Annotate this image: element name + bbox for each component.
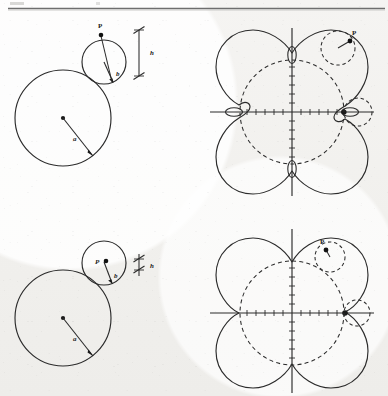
tracing-point-P-dot [348,39,353,44]
page-canvas: a b P h [0,0,388,396]
tracing-point-P-dot [104,259,109,264]
label-b: b [114,272,118,280]
label-P: P [95,258,100,266]
tracing-point-P-dot [99,33,104,38]
radius-arrowhead-b [108,279,112,284]
panel-bottom-left-generating-diagram-curtate: a b P h [0,198,194,396]
panel-top-right-curve-plot-prolate: P [194,0,388,198]
label-a: a [73,335,77,343]
tracing-point-P-dot [324,248,329,253]
label-P: P [352,29,357,37]
generator-line-P [101,36,112,82]
panel-bottom-right-curve-plot-curtate: P [194,198,388,396]
label-P: P [320,238,325,246]
label-h: h [150,262,154,270]
radius-arrowhead-a [88,350,94,357]
label-h: h [150,49,154,57]
label-a: a [73,135,77,143]
label-b: b [116,70,120,78]
label-P: P [98,22,103,30]
panel-top-left-generating-diagram-prolate: a b P h [0,0,194,198]
cusp-node-right-dot [342,310,348,316]
radius-arrowhead-a [88,150,94,157]
